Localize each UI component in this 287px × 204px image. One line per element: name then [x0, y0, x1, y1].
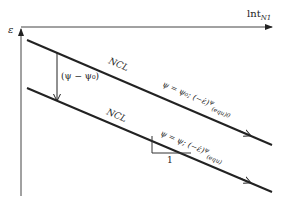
shift-label: (ψ − ψ₀): [61, 71, 99, 81]
upper-ncl-label: NCL: [106, 55, 130, 73]
x-axis-label: lntN1: [247, 8, 271, 22]
lower-ncl-line: [27, 88, 272, 192]
ncl-diagram: ε lntN1 (ψ − ψ₀) NCL ψ = ψ₀; (−ε̇)ψ(equ)…: [0, 0, 287, 204]
y-axis-label: ε: [8, 24, 13, 35]
slope-run-label: 1: [167, 155, 173, 165]
lower-direction-arrow: [240, 178, 250, 182]
upper-direction-arrow: [240, 131, 250, 135]
upper-ncl-line: [27, 40, 272, 145]
